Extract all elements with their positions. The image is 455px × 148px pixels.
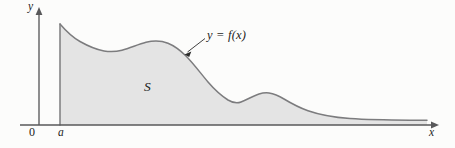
origin-label: 0 <box>29 126 35 138</box>
figure-container: y x 0 a S y = f(x) <box>0 0 455 148</box>
function-label-leader-line <box>188 39 206 53</box>
lower-limit-label-a: a <box>58 127 64 139</box>
function-label: y = f(x) <box>207 29 246 42</box>
x-axis-label: x <box>429 127 434 139</box>
area-under-curve-figure <box>0 0 455 148</box>
y-axis-arrowhead-icon <box>36 7 43 15</box>
region-label-s: S <box>144 80 151 94</box>
y-axis-label: y <box>28 1 33 13</box>
